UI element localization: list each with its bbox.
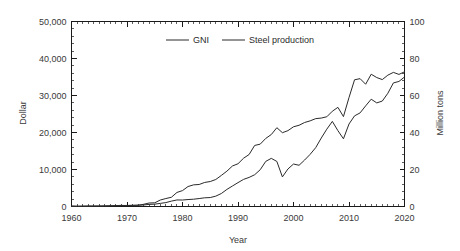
- x-tick-label: 2000: [283, 213, 303, 223]
- y-right-tick-label: 0: [410, 202, 415, 212]
- y-right-tick-label: 80: [410, 54, 420, 64]
- x-axis-title: Year: [229, 235, 247, 245]
- x-tick-label: 1970: [117, 213, 137, 223]
- y-right-tick-label: 40: [410, 128, 420, 138]
- y-left-tick-label: 0: [61, 202, 66, 212]
- y-left-tick-label: 10,000: [39, 165, 67, 175]
- legend-label-steel-production: Steel production: [249, 35, 314, 45]
- line-chart: 1960197019801990200020102020 010,00020,0…: [0, 0, 460, 251]
- y-right-axis-title: Million tons: [435, 90, 445, 136]
- y-right-tick-label: 60: [410, 91, 420, 101]
- x-tick-label: 1960: [61, 213, 81, 223]
- y-left-tick-label: 50,000: [39, 17, 67, 27]
- y-right-tick-label: 100: [410, 17, 425, 27]
- y-right-tick-label: 20: [410, 165, 420, 175]
- x-tick-label: 2020: [394, 213, 414, 223]
- x-tick-label: 1990: [228, 213, 248, 223]
- x-tick-label: 1980: [172, 213, 192, 223]
- legend-label-gni: GNI: [193, 35, 209, 45]
- x-tick-label: 2010: [339, 213, 359, 223]
- y-left-tick-label: 40,000: [39, 54, 67, 64]
- y-left-tick-label: 20,000: [39, 128, 67, 138]
- y-left-axis-title: Dollar: [18, 101, 28, 125]
- y-left-tick-label: 30,000: [39, 91, 67, 101]
- chart-container: 1960197019801990200020102020 010,00020,0…: [0, 0, 460, 251]
